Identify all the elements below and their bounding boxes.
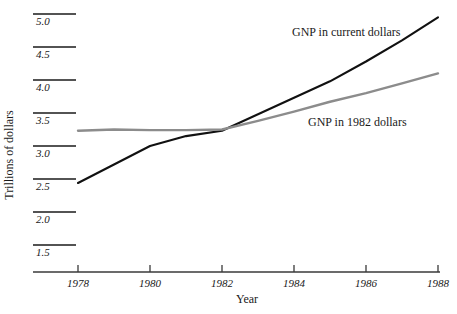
y-tick-label: 3.0: [35, 147, 50, 159]
y-tick-label: 2.0: [36, 213, 50, 225]
y-tick-label: 4.0: [36, 81, 50, 93]
x-tick-label: 1986: [355, 277, 378, 289]
y-axis-title: Trillions of dollars: [2, 110, 16, 200]
series-label-current-dollars: GNP in current dollars: [292, 25, 401, 39]
x-tick-label: 1988: [427, 277, 450, 289]
x-tick-label: 1980: [139, 277, 162, 289]
y-tick-label: 3.5: [35, 114, 50, 126]
y-tick-label: 1.5: [36, 246, 50, 258]
series-line-current-dollars: [78, 17, 438, 183]
x-axis-ticks: [78, 265, 438, 272]
x-axis-title: Year: [236, 292, 258, 306]
y-tick-label: 4.5: [36, 48, 50, 60]
x-tick-label: 1978: [67, 277, 90, 289]
chart-svg: 1.52.02.53.03.54.04.55.0 197819801982198…: [0, 0, 457, 314]
y-tick-label: 2.5: [36, 180, 50, 192]
y-tick-label: 5.0: [36, 15, 50, 27]
y-axis-tick-labels: 1.52.02.53.03.54.04.55.0: [35, 15, 50, 258]
series-label-1982-dollars: GNP in 1982 dollars: [308, 115, 407, 129]
x-axis-tick-labels: 197819801982198419861988: [67, 277, 450, 289]
x-tick-label: 1984: [283, 277, 306, 289]
gnp-line-chart: 1.52.02.53.03.54.04.55.0 197819801982198…: [0, 0, 457, 314]
data-series-group: [78, 17, 438, 183]
x-tick-label: 1982: [211, 277, 234, 289]
